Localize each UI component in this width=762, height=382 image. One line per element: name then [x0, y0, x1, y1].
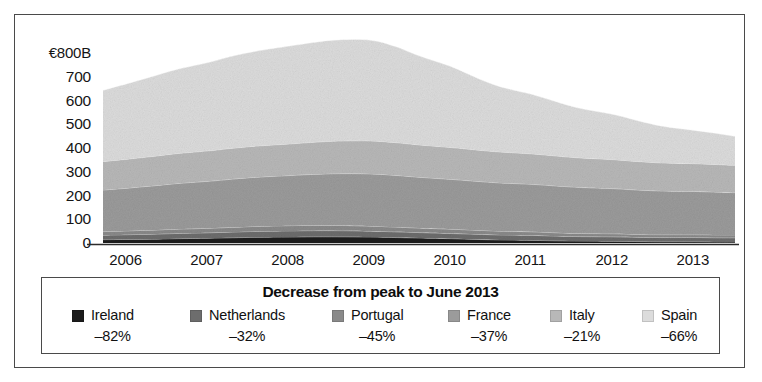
legend-item-label: France [467, 307, 511, 323]
x-axis-tick: 2010 [433, 252, 466, 267]
x-axis: 20062007200820092010201120122013 [87, 248, 739, 274]
y-axis-tick: 200 [25, 188, 91, 204]
chart-legend: Decrease from peak to June 2013 Ireland–… [41, 277, 720, 354]
x-axis-tick: 2007 [190, 252, 223, 267]
y-axis-tick: 500 [25, 116, 91, 132]
legend-item-label: Ireland [91, 307, 134, 323]
y-axis-tick: 400 [25, 140, 91, 156]
y-axis-tick: €800B [25, 45, 91, 60]
x-axis-tick: 2011 [514, 252, 545, 267]
y-axis: €800B7006005004003002001000 [25, 33, 91, 251]
y-axis-tick: 700 [25, 69, 91, 85]
legend-swatch-icon [642, 310, 654, 322]
legend-swatch-icon [332, 310, 344, 322]
legend-items: Ireland–82%Netherlands–32%Portugal–45%Fr… [42, 307, 719, 353]
y-axis-tick: 0 [25, 235, 91, 251]
x-axis-tick: 2009 [352, 252, 385, 267]
legend-item-label: Italy [569, 307, 595, 323]
legend-item-label: Portugal [351, 307, 403, 323]
y-axis-tick: 100 [25, 211, 91, 227]
plot-area: €800B7006005004003002001000 200620072008… [15, 15, 746, 273]
chart-figure: €800B7006005004003002001000 200620072008… [14, 14, 745, 368]
legend-swatch-icon [72, 310, 84, 322]
legend-swatch-icon [550, 310, 562, 322]
legend-title: Decrease from peak to June 2013 [42, 283, 719, 301]
stacked-area-chart [87, 15, 739, 248]
legend-item-value: –82% [95, 328, 131, 344]
legend-swatch-icon [448, 310, 460, 322]
legend-item-label: Spain [661, 307, 697, 323]
legend-swatch-icon [190, 310, 202, 322]
legend-item-value: –21% [564, 328, 600, 344]
legend-item-value: –32% [229, 328, 265, 344]
legend-item-value: –66% [661, 328, 697, 344]
x-axis-tick: 2013 [676, 252, 709, 267]
x-axis-tick: 2012 [595, 252, 628, 267]
legend-item-label: Netherlands [209, 307, 285, 323]
x-axis-tick: 2008 [271, 252, 304, 267]
y-axis-tick: 300 [25, 164, 91, 180]
x-axis-tick: 2006 [109, 252, 142, 267]
y-axis-tick: 600 [25, 93, 91, 109]
legend-item-value: –37% [471, 328, 507, 344]
legend-item-value: –45% [359, 328, 395, 344]
